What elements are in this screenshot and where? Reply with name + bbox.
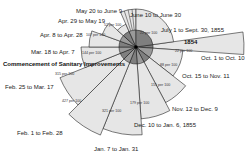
sanitary-improvements-annotation: Commencement of Sanitary Improvements: [3, 61, 125, 67]
value-mar18: 144 per 100: [82, 52, 101, 56]
value-jul1: 22 per 100: [140, 32, 157, 36]
value-nov12: 155 per 100: [151, 84, 170, 88]
label-nov12: Nov. 12 to Dec. 9: [172, 106, 218, 112]
label-dec10: Dec. 10 to Jan. 6, 1855: [134, 122, 196, 128]
label-jul1: July 1 to Sept. 30, 1855: [161, 27, 224, 33]
label-mar18: Mar. 18 to Apr. 7: [31, 49, 75, 55]
label-jan7: Jan. 7 to Jan. 31: [94, 146, 138, 152]
value-feb1: 427 per 100: [62, 100, 81, 104]
label-jun10: June 10 to June 30: [130, 12, 181, 18]
year-label: 1854: [184, 39, 197, 45]
value-apr29: 52 per 100: [104, 24, 121, 28]
value-feb25: 315 per 100: [55, 73, 74, 77]
value-oct1: 22 per 100: [175, 50, 192, 54]
label-apr29: Apr. 29 to May 19: [58, 18, 105, 24]
value-oct15: 88 per 100: [160, 64, 177, 68]
value-jan7: 321 per 100: [102, 110, 121, 114]
label-oct1: Oct. 1 to Oct. 10: [201, 55, 245, 61]
center-point: [134, 45, 138, 49]
label-apr8: Apr. 8 to Apr. 28: [40, 32, 83, 38]
label-feb25: Feb. 25 to Mar. 17: [5, 84, 54, 90]
label-feb1: Feb. 1 to Feb. 28: [17, 130, 63, 136]
label-oct15: Oct. 15 to Nov. 11: [182, 73, 229, 79]
value-dec10: 179 per 100: [130, 102, 149, 106]
value-apr8: 107 per 100: [86, 34, 105, 38]
label-may20: May 20 to June 9: [76, 8, 122, 14]
